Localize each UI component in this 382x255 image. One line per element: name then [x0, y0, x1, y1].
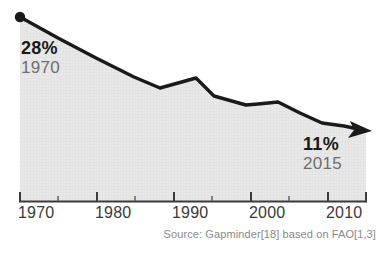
- chart-figure: 28% 1970 11% 2015 1970 1980 1990 2000 20…: [0, 0, 382, 255]
- start-value-label: 28%: [21, 38, 60, 58]
- start-annotation: 28% 1970: [21, 38, 60, 78]
- start-point-marker: [15, 12, 25, 22]
- start-year-label: 1970: [21, 58, 60, 78]
- end-value-label: 11%: [303, 134, 342, 154]
- source-caption: Source: Gapminder[18] based on FAO[1,3]: [0, 228, 376, 240]
- x-axis-label-2010: 2010: [326, 204, 362, 222]
- end-annotation: 11% 2015: [303, 134, 342, 174]
- x-axis-label-1990: 1990: [172, 204, 208, 222]
- end-year-label: 2015: [303, 154, 342, 174]
- x-axis-label-1970: 1970: [18, 204, 54, 222]
- x-axis-label-1980: 1980: [95, 204, 131, 222]
- x-axis-label-2000: 2000: [249, 204, 285, 222]
